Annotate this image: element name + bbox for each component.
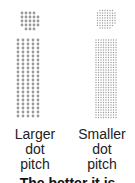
smaller-dot-pitch-label: Smaller dot pitch [67,127,135,172]
caption: The better it is [0,175,135,183]
larger-dot-pitch-label: Larger dot pitch [0,127,70,172]
left-dot-pattern [17,12,40,118]
right-dot-pattern [95,10,116,118]
